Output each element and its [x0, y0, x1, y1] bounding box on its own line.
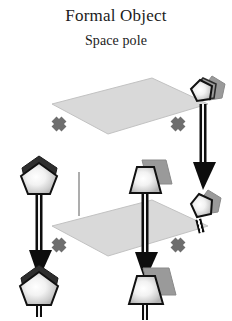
node-top-right — [191, 76, 225, 101]
node-bottom-left — [20, 265, 58, 305]
arrow-right — [193, 104, 216, 190]
node-bottom-mid — [129, 268, 176, 304]
top-plane — [52, 78, 208, 134]
figure-root: Formal Object Space pole — [0, 0, 232, 321]
stem-bottom-mid — [142, 303, 148, 320]
node-top-mid — [130, 160, 172, 193]
planes-layer — [52, 78, 208, 256]
cross-bottom-left — [49, 235, 69, 255]
node-mid-right — [191, 190, 221, 217]
cross-top-left — [49, 114, 69, 134]
cross-bottom-right — [168, 235, 188, 255]
cross-top-right — [168, 114, 188, 134]
node-top-left — [21, 156, 57, 194]
space-pole-diagram — [0, 0, 232, 321]
